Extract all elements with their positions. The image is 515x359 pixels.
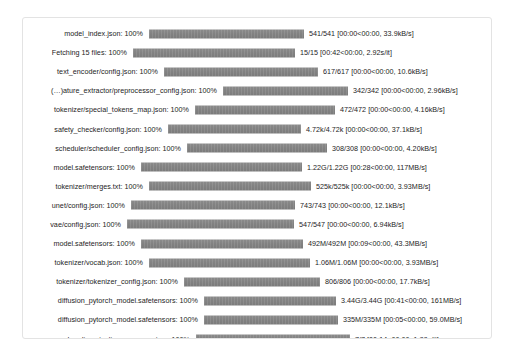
progress-bar-fill: [127, 220, 294, 229]
progress-bar: [141, 163, 302, 172]
progress-row-stats: 617/617 [00:00<00:00, 10.6kB/s]: [323, 67, 428, 76]
progress-bar: [131, 201, 295, 210]
progress-bar: [149, 29, 304, 38]
progress-bar-fill: [195, 105, 335, 114]
progress-row-stats: 3.44G/3.44G [00:41<00:00, 161MB/s]: [341, 296, 461, 305]
progress-row: tokenizer/tokenizer_config.json: 100%806…: [23, 272, 491, 291]
progress-bar: [168, 125, 301, 134]
progress-row-stats: 743/743 [00:00<00:00, 12.1kB/s]: [300, 201, 405, 210]
progress-row: (…)ature_extractor/preprocessor_config.j…: [23, 81, 491, 100]
progress-row-stats: 1.22G/1.22G [00:28<00:00, 117MB/s]: [307, 163, 427, 172]
progress-bar: [164, 67, 318, 76]
progress-bar-fill: [187, 144, 327, 153]
progress-bar-fill: [149, 182, 311, 191]
progress-row: Loading pipeline components...: 100%7/7 …: [23, 330, 491, 340]
progress-row-stats: 308/308 [00:00<00:00, 4.20kB/s]: [332, 144, 437, 153]
progress-row-label: Loading pipeline components...: 100%: [67, 335, 190, 339]
progress-row: vae/config.json: 100%547/547 [00:00<00:0…: [23, 215, 491, 234]
progress-bar: [187, 144, 327, 153]
progress-bar: [149, 258, 310, 267]
progress-row-label: safety_checker/config.json: 100%: [54, 125, 162, 134]
progress-bar: [196, 335, 350, 339]
progress-bar-fill: [149, 29, 304, 38]
progress-bar-fill: [204, 296, 336, 305]
progress-bar: [127, 220, 294, 229]
progress-row-stats: 525k/525k [00:00<00:00, 3.93MB/s]: [316, 182, 430, 191]
progress-bar: [204, 315, 338, 324]
progress-bar-fill: [133, 48, 295, 57]
progress-bar: [184, 277, 320, 286]
progress-row-label: tokenizer/vocab.json: 100%: [55, 258, 143, 267]
progress-row-label: diffusion_pytorch_model.safetensors: 100…: [58, 296, 198, 305]
progress-bar: [141, 239, 303, 248]
progress-row-label: tokenizer/special_tokens_map.json: 100%: [54, 105, 189, 114]
progress-bar: [204, 296, 336, 305]
progress-row-list: model_index.json: 100%541/541 [00:00<00:…: [23, 24, 491, 339]
progress-row: tokenizer/vocab.json: 100%1.06M/1.06M [0…: [23, 253, 491, 272]
progress-row-label: model.safetensors: 100%: [53, 163, 135, 172]
progress-bar-fill: [184, 277, 320, 286]
progress-row-stats: 335M/335M [00:05<00:00, 59.0MB/s]: [343, 315, 462, 324]
progress-bar-fill: [141, 239, 303, 248]
progress-row-label: scheduler/scheduler_config.json: 100%: [55, 144, 181, 153]
progress-bar-fill: [164, 67, 318, 76]
progress-row-label: model_index.json: 100%: [64, 29, 143, 38]
progress-bar: [133, 48, 295, 57]
progress-row-stats: 7/7 [00:14<00:00, 1.88s/it]: [355, 335, 439, 339]
progress-row-stats: 4.72k/4.72k [00:00<00:00, 37.1kB/s]: [306, 125, 422, 134]
progress-bar: [195, 105, 335, 114]
progress-row: diffusion_pytorch_model.safetensors: 100…: [23, 291, 491, 310]
progress-row-label: text_encoder/config.json: 100%: [57, 67, 158, 76]
progress-row: model_index.json: 100%541/541 [00:00<00:…: [23, 24, 491, 43]
progress-row-label: vae/config.json: 100%: [50, 220, 121, 229]
progress-row: tokenizer/merges.txt: 100%525k/525k [00:…: [23, 177, 491, 196]
progress-row: tokenizer/special_tokens_map.json: 100%4…: [23, 100, 491, 119]
progress-row-stats: 547/547 [00:00<00:00, 6.94kB/s]: [299, 220, 404, 229]
progress-row: diffusion_pytorch_model.safetensors: 100…: [23, 310, 491, 329]
progress-row-stats: 1.06M/1.06M [00:00<00:00, 3.93MB/s]: [315, 258, 438, 267]
progress-row-label: unet/config.json: 100%: [52, 201, 125, 210]
progress-row-stats: 492M/492M [00:09<00:00, 43.3MB/s]: [308, 239, 427, 248]
progress-row-stats: 15/15 [00:42<00:00, 2.92s/it]: [300, 48, 392, 57]
progress-row: model.safetensors: 100%1.22G/1.22G [00:2…: [23, 158, 491, 177]
progress-row-label: tokenizer/tokenizer_config.json: 100%: [56, 277, 178, 286]
progress-row-stats: 806/806 [00:00<00:00, 17.7kB/s]: [325, 277, 430, 286]
progress-bar-fill: [168, 125, 301, 134]
progress-row: scheduler/scheduler_config.json: 100%308…: [23, 139, 491, 158]
progress-bar: [149, 182, 311, 191]
progress-bar-fill: [131, 201, 295, 210]
progress-row: text_encoder/config.json: 100%617/617 [0…: [23, 62, 491, 81]
progress-row-stats: 541/541 [00:00<00:00, 33.9kB/s]: [309, 29, 414, 38]
progress-row: unet/config.json: 100%743/743 [00:00<00:…: [23, 196, 491, 215]
progress-row: model.safetensors: 100%492M/492M [00:09<…: [23, 234, 491, 253]
progress-row-stats: 342/342 [00:00<00:00, 2.96kB/s]: [353, 86, 458, 95]
progress-row-stats: 472/472 [00:00<00:00, 4.16kB/s]: [340, 105, 445, 114]
progress-bar-fill: [196, 335, 350, 339]
progress-bar: [223, 86, 348, 95]
progress-panel: model_index.json: 100%541/541 [00:00<00:…: [22, 17, 492, 339]
progress-bar-fill: [149, 258, 310, 267]
progress-row-label: Fetching 15 files: 100%: [52, 48, 127, 57]
progress-row: Fetching 15 files: 100%15/15 [00:42<00:0…: [23, 43, 491, 62]
progress-row-label: diffusion_pytorch_model.safetensors: 100…: [58, 315, 198, 324]
progress-bar-fill: [204, 315, 338, 324]
progress-bar-fill: [223, 86, 348, 95]
progress-row-label: tokenizer/merges.txt: 100%: [55, 182, 143, 191]
progress-row-label: (…)ature_extractor/preprocessor_config.j…: [51, 86, 217, 95]
progress-bar-fill: [141, 163, 302, 172]
progress-row-label: model.safetensors: 100%: [53, 239, 135, 248]
progress-row: safety_checker/config.json: 100%4.72k/4.…: [23, 119, 491, 138]
